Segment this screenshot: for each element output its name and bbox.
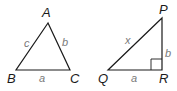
vertex-label-r: R <box>159 71 168 86</box>
vertex-label-b: B <box>7 71 16 86</box>
right-angle-marker <box>151 59 162 70</box>
vertex-label-p: P <box>159 2 168 17</box>
side-label-b: b <box>62 36 68 48</box>
triangles-diagram: A B C c b a P Q R x b a <box>0 0 177 91</box>
vertex-label-a: A <box>41 5 51 20</box>
side-label-b: b <box>165 47 171 59</box>
triangle-abc: A B C c b a <box>7 5 80 86</box>
side-label-c: c <box>24 37 30 49</box>
side-label-x: x <box>124 34 131 46</box>
vertex-label-q: Q <box>98 71 108 86</box>
side-label-a: a <box>131 72 137 84</box>
side-label-a: a <box>39 72 45 84</box>
vertex-label-c: C <box>70 71 80 86</box>
triangle-pqr-shape <box>108 18 162 70</box>
triangle-pqr: P Q R x b a <box>98 2 171 86</box>
